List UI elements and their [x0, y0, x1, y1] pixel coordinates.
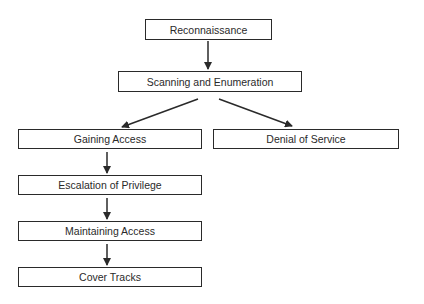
node-scanning-enumeration: Scanning and Enumeration	[118, 71, 302, 92]
node-label: Denial of Service	[266, 133, 345, 145]
connector-arrows	[0, 0, 424, 304]
node-label: Scanning and Enumeration	[147, 76, 274, 88]
node-label: Reconnaissance	[170, 24, 248, 36]
node-label: Escalation of Privilege	[58, 179, 161, 191]
node-maintaining-access: Maintaining Access	[18, 221, 202, 241]
node-label: Cover Tracks	[79, 271, 141, 283]
node-escalation-of-privilege: Escalation of Privilege	[18, 175, 202, 195]
node-label: Gaining Access	[74, 133, 146, 145]
arrow-scan-to-dos	[219, 99, 292, 126]
node-cover-tracks: Cover Tracks	[18, 267, 202, 287]
node-reconnaissance: Reconnaissance	[145, 19, 272, 40]
node-label: Maintaining Access	[65, 225, 155, 237]
arrow-scan-to-gain	[122, 99, 198, 127]
node-gaining-access: Gaining Access	[18, 129, 202, 149]
node-denial-of-service: Denial of Service	[213, 129, 399, 149]
